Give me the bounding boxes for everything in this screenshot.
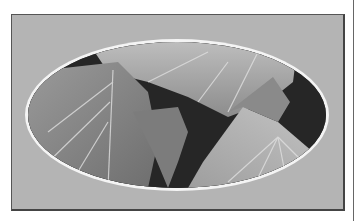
page-edge-line (353, 0, 354, 221)
ivy-leaves-photo (28, 42, 326, 188)
leaf-illustration (28, 42, 326, 188)
